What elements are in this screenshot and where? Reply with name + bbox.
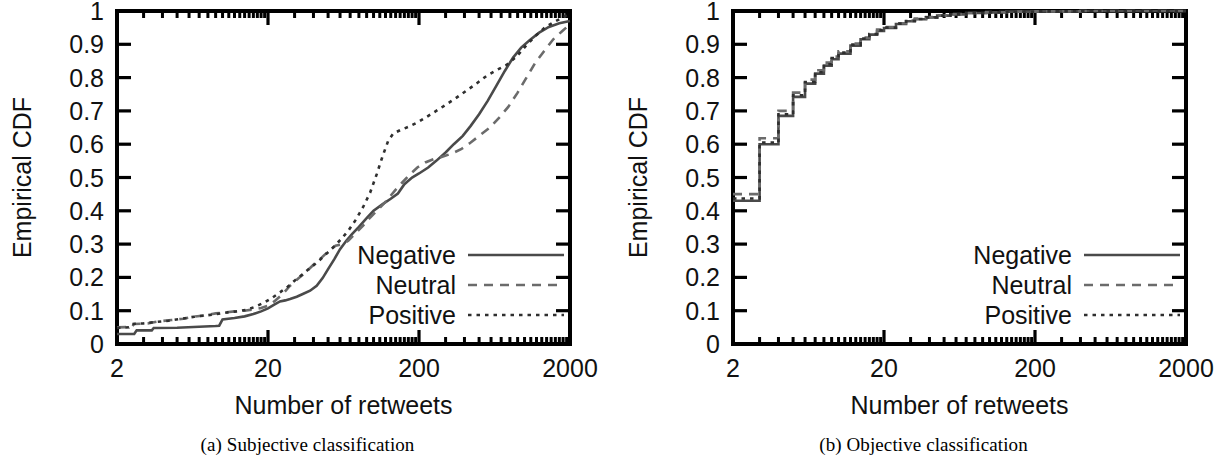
y-tick-label: 0.8: [69, 64, 104, 92]
y-tick-label: 0.2: [685, 263, 720, 291]
y-tick-label: 0.4: [69, 197, 104, 225]
y-tick-label: 0: [90, 330, 104, 358]
y-tick-label: 0.2: [69, 263, 104, 291]
x-axis-title: Number of retweets: [850, 391, 1068, 419]
y-tick-label: 0.1: [685, 297, 720, 325]
x-tick-label: 20: [870, 354, 898, 382]
series-line-neutral: [117, 24, 570, 327]
chart-panel-objective: 220200200000.10.20.30.40.50.60.70.80.91N…: [616, 0, 1231, 464]
legend-label-neutral: Neutral: [375, 271, 456, 299]
y-tick-label: 0: [706, 330, 720, 358]
y-tick-label: 0.1: [69, 297, 104, 325]
y-tick-label: 0.4: [685, 197, 720, 225]
series-line-negative: [117, 21, 570, 334]
series-line-neutral: [733, 11, 1186, 194]
series-line-negative: [733, 11, 1186, 201]
x-tick-label: 2000: [1158, 354, 1214, 382]
y-tick-label: 1: [706, 0, 720, 25]
x-tick-label: 2: [726, 354, 740, 382]
figure-container: 220200200000.10.20.30.40.50.60.70.80.91N…: [0, 0, 1231, 464]
legend-label-neutral: Neutral: [991, 271, 1072, 299]
y-tick-label: 0.7: [685, 97, 720, 125]
x-tick-label: 200: [1014, 354, 1056, 382]
legend-label-negative: Negative: [357, 241, 456, 269]
y-tick-label: 0.6: [69, 130, 104, 158]
y-tick-label: 0.6: [685, 130, 720, 158]
y-tick-label: 0.7: [69, 97, 104, 125]
y-axis-title: Empirical CDF: [8, 97, 36, 258]
x-axis-title: Number of retweets: [234, 391, 452, 419]
plot-b: 220200200000.10.20.30.40.50.60.70.80.91N…: [624, 0, 1214, 419]
x-tick-label: 200: [398, 354, 440, 382]
plot-frame: [733, 11, 1186, 344]
y-tick-label: 0.9: [69, 30, 104, 58]
x-tick-label: 2: [110, 354, 124, 382]
y-tick-label: 0.3: [685, 230, 720, 258]
y-tick-label: 1: [90, 0, 104, 25]
series-line-positive: [117, 13, 570, 328]
chart-panel-subjective: 220200200000.10.20.30.40.50.60.70.80.91N…: [0, 0, 615, 464]
y-axis-title: Empirical CDF: [624, 97, 652, 258]
y-tick-label: 0.9: [685, 30, 720, 58]
legend-label-positive: Positive: [984, 301, 1072, 329]
chart-svg-a: 220200200000.10.20.30.40.50.60.70.80.91N…: [0, 0, 615, 420]
panel-caption-a: (a) Subjective classification: [0, 434, 615, 456]
chart-svg-b: 220200200000.10.20.30.40.50.60.70.80.91N…: [616, 0, 1231, 420]
y-tick-label: 0.5: [685, 164, 720, 192]
plot-frame: [117, 11, 570, 344]
plot-a: 220200200000.10.20.30.40.50.60.70.80.91N…: [8, 0, 598, 419]
x-tick-label: 20: [254, 354, 282, 382]
y-tick-label: 0.8: [685, 64, 720, 92]
panel-caption-b: (b) Objective classification: [616, 434, 1231, 456]
y-tick-label: 0.5: [69, 164, 104, 192]
legend-label-negative: Negative: [973, 241, 1072, 269]
y-tick-label: 0.3: [69, 230, 104, 258]
x-tick-label: 2000: [542, 354, 598, 382]
series-line-positive: [733, 11, 1186, 198]
legend-label-positive: Positive: [368, 301, 456, 329]
